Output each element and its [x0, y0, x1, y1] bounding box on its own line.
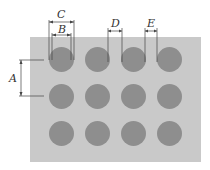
label-c: C: [57, 9, 65, 20]
dimension-lines: [0, 0, 210, 170]
label-a: A: [9, 73, 17, 84]
hole-array-diagram: C B D E A: [0, 0, 210, 170]
label-b: B: [58, 24, 66, 35]
label-d: D: [111, 18, 120, 29]
label-e: E: [147, 18, 155, 29]
